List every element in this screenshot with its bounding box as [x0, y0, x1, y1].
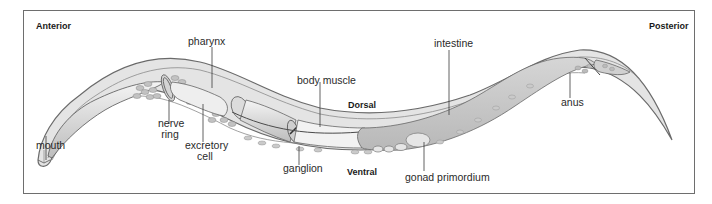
dorsal-label: Dorsal	[348, 100, 376, 110]
excretory-cell-label-line2: cell	[185, 151, 225, 162]
intestine-label: intestine	[434, 38, 473, 49]
mouth-label: mouth	[36, 140, 65, 151]
excretory-cell-label: excretory cell	[185, 140, 225, 162]
body-muscle-label: body muscle	[297, 75, 356, 86]
posterior-label: Posterior	[649, 21, 689, 31]
anterior-label: Anterior	[36, 21, 71, 31]
nerve-ring-label: nerve ring	[158, 118, 182, 140]
pharynx-label: pharynx	[188, 36, 225, 47]
ganglion-label: ganglion	[283, 163, 323, 174]
ventral-label: Ventral	[347, 167, 377, 177]
nerve-ring-label-line2: ring	[158, 129, 182, 140]
anus-label: anus	[561, 97, 584, 108]
gonad-primordium-label: gonad primordium	[405, 172, 490, 183]
